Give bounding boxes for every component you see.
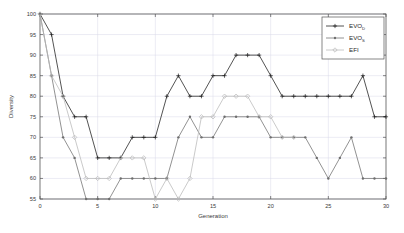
data-point-marker (222, 74, 226, 78)
y-tick-label: 85 (30, 73, 36, 79)
data-point-marker (362, 177, 364, 179)
data-point-marker (108, 198, 110, 200)
legend-subscript: S (362, 38, 365, 43)
data-point-marker (189, 116, 191, 118)
data-point-marker (211, 74, 215, 78)
chart-canvas: 556065707580859095100051015202530Generat… (0, 0, 404, 233)
x-tick-label: 20 (268, 203, 274, 209)
y-tick-label: 95 (30, 32, 36, 38)
data-point-marker (350, 136, 352, 138)
x-axis-title: Generation (198, 213, 228, 219)
data-point-marker (188, 94, 192, 98)
data-point-marker (349, 94, 353, 98)
figure: 556065707580859095100051015202530Generat… (0, 0, 404, 233)
data-point-marker (361, 74, 365, 78)
data-point-marker (223, 116, 225, 118)
x-tick-label: 30 (383, 203, 389, 209)
data-point-marker (142, 135, 146, 139)
y-axis-title: Diversity (8, 95, 14, 118)
x-tick-label: 5 (96, 203, 99, 209)
data-point-marker (234, 53, 238, 57)
data-point-marker (96, 156, 100, 160)
data-point-marker (315, 94, 319, 98)
data-point-marker (246, 116, 248, 118)
data-point-marker (200, 136, 202, 138)
legend-subscript: D (362, 26, 365, 31)
data-point-marker (269, 136, 271, 138)
data-point-marker (165, 94, 169, 98)
data-point-marker (269, 74, 273, 78)
x-tick-label: 25 (325, 203, 331, 209)
data-point-marker (176, 74, 180, 78)
y-tick-label: 75 (30, 114, 36, 120)
data-point-marker (338, 94, 342, 98)
data-point-marker (120, 177, 122, 179)
x-tick-label: 0 (38, 203, 41, 209)
data-point-marker (384, 115, 388, 119)
data-point-marker (373, 177, 375, 179)
data-point-marker (96, 198, 98, 200)
y-tick-label: 100 (27, 11, 36, 17)
y-tick-label: 65 (30, 155, 36, 161)
data-point-marker (385, 177, 387, 179)
data-point-marker (154, 177, 156, 179)
data-point-marker (130, 135, 134, 139)
data-point-marker (326, 94, 330, 98)
y-tick-label: 70 (30, 134, 36, 140)
data-point-marker (85, 198, 87, 200)
data-point-marker (199, 94, 203, 98)
data-point-marker (84, 115, 88, 119)
x-tick-label: 10 (152, 203, 158, 209)
data-point-marker (49, 32, 53, 36)
data-point-marker (280, 94, 284, 98)
series-efi (38, 12, 296, 201)
data-point-marker (131, 177, 133, 179)
data-point-marker (73, 157, 75, 159)
data-point-marker (246, 53, 250, 57)
data-point-marker (73, 115, 77, 119)
data-point-marker (372, 115, 376, 119)
data-point-marker (303, 94, 307, 98)
data-point-marker (316, 157, 318, 159)
data-point-marker (334, 37, 336, 39)
data-point-marker (327, 177, 329, 179)
data-point-marker (339, 157, 341, 159)
data-point-marker (292, 94, 296, 98)
data-point-marker (235, 116, 237, 118)
data-point-marker (304, 136, 306, 138)
y-tick-label: 60 (30, 175, 36, 181)
y-tick-label: 90 (30, 52, 36, 58)
data-point-marker (62, 136, 64, 138)
data-point-marker (153, 135, 157, 139)
legend-label: EFI (349, 46, 359, 53)
data-point-marker (177, 136, 179, 138)
x-tick-label: 15 (210, 203, 216, 209)
data-point-marker (212, 136, 214, 138)
data-point-marker (107, 156, 111, 160)
data-point-marker (143, 177, 145, 179)
y-tick-label: 80 (30, 93, 36, 99)
legend: EVODEVOSEFI (322, 17, 384, 59)
y-tick-label: 55 (30, 196, 36, 202)
data-point-marker (257, 53, 261, 57)
